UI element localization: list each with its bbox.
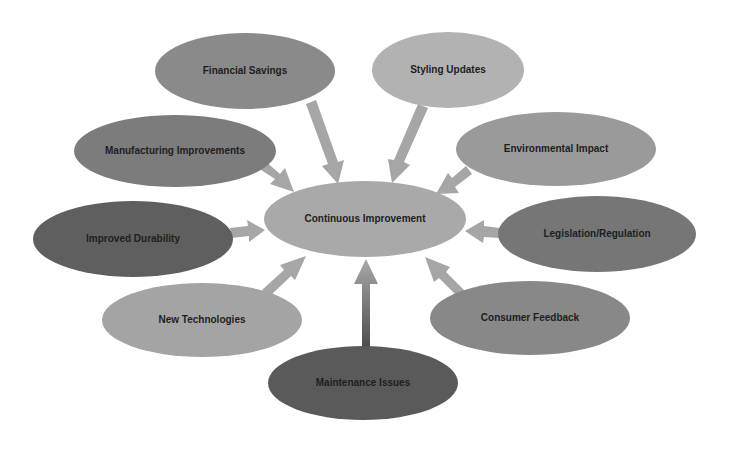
center-label: Continuous Improvement [304, 213, 426, 224]
node-label: Environmental Impact [504, 143, 609, 154]
continuous-improvement-diagram: Financial Savings Styling Updates Manufa… [0, 0, 730, 454]
node-label: New Technologies [158, 314, 245, 325]
node-improved-durability: Improved Durability [33, 201, 233, 277]
node-label: Financial Savings [203, 65, 288, 76]
arrow-maintenance-issues [354, 259, 378, 350]
node-label: Manufacturing Improvements [105, 145, 245, 156]
node-label: Maintenance Issues [316, 377, 411, 388]
node-continuous-improvement: Continuous Improvement [264, 181, 466, 257]
arrow-environmental-impact [436, 166, 472, 194]
arrow-legislation-regulation [465, 220, 500, 243]
node-legislation-regulation: Legislation/Regulation [498, 196, 696, 272]
arrow-improved-durability [230, 220, 265, 242]
arrow-styling-updates [388, 104, 428, 183]
node-environmental-impact: Environmental Impact [456, 112, 656, 186]
node-manufacturing-improvements: Manufacturing Improvements [74, 115, 276, 187]
node-label: Improved Durability [86, 233, 180, 244]
arrow-consumer-feedback [425, 257, 465, 297]
node-styling-updates: Styling Updates [372, 32, 524, 108]
node-maintenance-issues: Maintenance Issues [268, 346, 458, 420]
arrow-new-technologies [262, 256, 306, 296]
node-label: Legislation/Regulation [543, 228, 650, 239]
node-new-technologies: New Technologies [102, 283, 302, 357]
node-label: Consumer Feedback [481, 312, 580, 323]
node-label: Styling Updates [410, 64, 486, 75]
node-consumer-feedback: Consumer Feedback [430, 281, 630, 355]
node-financial-savings: Financial Savings [155, 33, 335, 109]
arrow-financial-savings [306, 100, 344, 184]
